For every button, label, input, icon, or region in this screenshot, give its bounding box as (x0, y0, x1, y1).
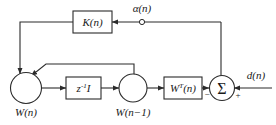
block-weight-transpose-label: WT(n) (170, 82, 196, 95)
block-gain[interactable]: K(n) (73, 11, 112, 33)
summer-sigma-glyph: Σ (217, 80, 226, 97)
node-weight-delayed[interactable]: W(n−1) (116, 74, 151, 119)
signal-desired-label: d(n) (247, 69, 266, 82)
block-gain-label: K(n) (81, 16, 103, 29)
summer-plus-sign: + (235, 90, 240, 100)
node-weight-current[interactable]: W(n) (11, 73, 42, 120)
signal-alpha[interactable]: α(n) (133, 2, 152, 25)
signal-alpha-label: α(n) (133, 2, 152, 15)
node-weight-delayed-label: W(n−1) (116, 106, 151, 119)
wire-gain-to-weight-node (20, 22, 73, 74)
diagram-canvas: K(n) z-1I WT(n) W(n) W(n−1) (0, 0, 276, 125)
summer-minus-sign: − (204, 89, 209, 99)
signal-desired: d(n) (247, 69, 266, 82)
alpha-tap-dot[interactable] (139, 19, 144, 24)
block-weight-transpose[interactable]: WT(n) (164, 77, 202, 99)
node-weight-delayed-tail: (n−1) (125, 106, 151, 119)
node-weight-current-label: W(n) (15, 106, 37, 119)
block-weight-transpose-tail: (n) (183, 82, 196, 95)
block-diagram-figure: K(n) z-1I WT(n) W(n) W(n−1) (0, 0, 276, 125)
block-delay[interactable]: z-1I (66, 77, 101, 99)
wire-delayed-feedback (31, 64, 134, 76)
